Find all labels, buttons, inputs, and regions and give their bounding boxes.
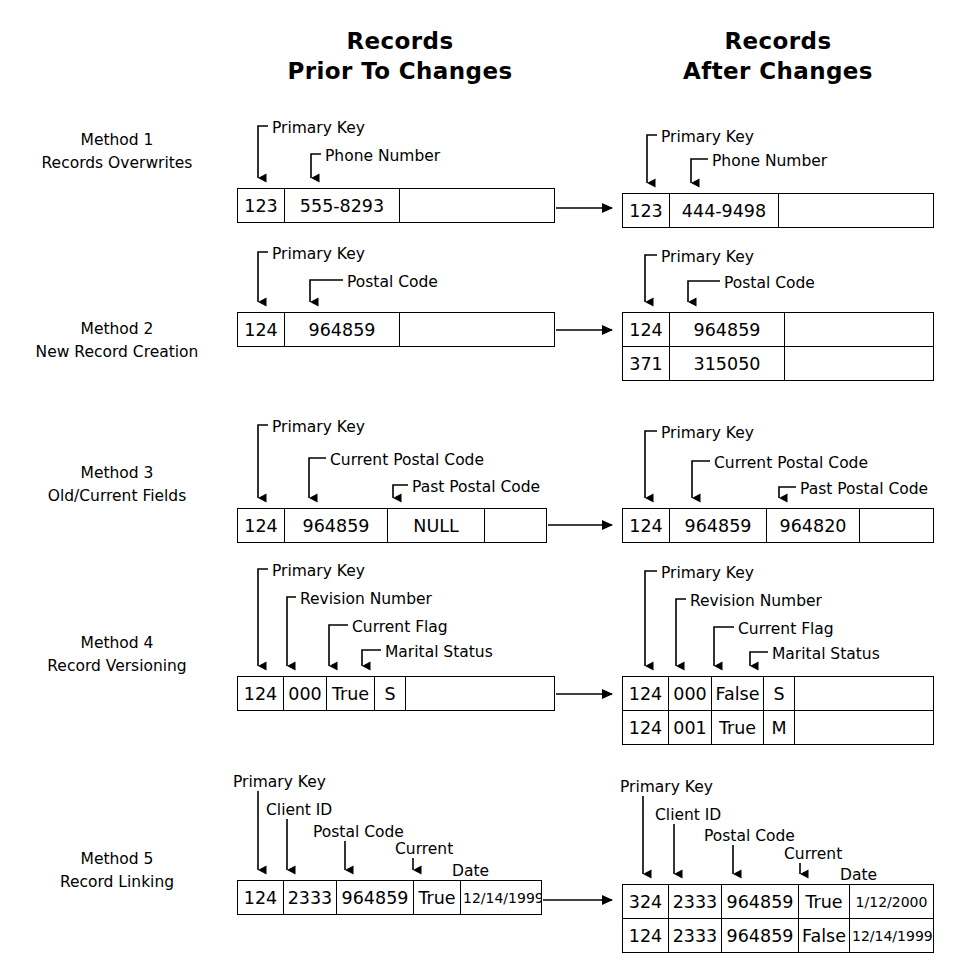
- leader-m4-before-primary-key: [258, 569, 268, 666]
- cell-marital-status: S: [764, 677, 795, 711]
- cell-primary-key: 123: [623, 194, 670, 228]
- leader-m1-before-primary-key: [258, 126, 268, 178]
- callout-m5-after-postal-code: Postal Code: [704, 827, 795, 845]
- leader-m4-after-current-flag: [714, 627, 734, 666]
- cell-blank: [785, 313, 934, 347]
- cell-blank: [779, 194, 934, 228]
- callout-m1-before-primary-key: Primary Key: [272, 119, 365, 137]
- leader-m2-before-primary-key: [258, 252, 268, 302]
- cell-client-id: 2333: [669, 885, 722, 919]
- record-table-method3-after: 124 964859 964820: [622, 508, 934, 543]
- cell-primary-key: 124: [623, 711, 669, 745]
- cell-blank: [860, 509, 934, 543]
- callout-m5-after-date: Date: [840, 866, 877, 884]
- cell-blank: [785, 347, 934, 381]
- callout-m4-after-marital-status: Marital Status: [772, 645, 880, 663]
- table-row: 124 001 True M: [623, 711, 934, 745]
- callout-m4-before-current-flag: Current Flag: [352, 618, 448, 636]
- callout-m5-after-client-id: Client ID: [655, 806, 721, 824]
- cell-primary-key: 124: [238, 881, 284, 915]
- cell-primary-key: 124: [623, 509, 670, 543]
- cell-current: True: [799, 885, 850, 919]
- callout-m1-after-primary-key: Primary Key: [661, 128, 754, 146]
- callout-m2-before-primary-key: Primary Key: [272, 245, 365, 263]
- record-table-method2-before: 124 964859: [237, 312, 555, 347]
- cell-blank: [400, 189, 555, 223]
- leader-m2-after-primary-key: [645, 255, 657, 302]
- cell-blank: [400, 313, 555, 347]
- table-row: 371 315050: [623, 347, 934, 381]
- record-table-method4-before: 124 000 True S: [237, 676, 555, 711]
- callout-m2-before-postal-code: Postal Code: [347, 273, 438, 291]
- record-table-method1-after: 123 444-9498: [622, 193, 934, 228]
- leader-m4-after-primary-key: [645, 571, 657, 666]
- cell-primary-key: 124: [623, 677, 669, 711]
- cell-current-postal-code: 964859: [285, 509, 388, 543]
- record-table-method5-after: 324 2333 964859 True 1/12/2000 124 2333 …: [622, 884, 934, 953]
- cell-marital-status: M: [764, 711, 795, 745]
- table-row: 123 555-8293: [238, 189, 555, 223]
- callout-m4-before-revision-number: Revision Number: [300, 590, 432, 608]
- cell-current: False: [799, 919, 850, 953]
- callout-m4-before-marital-status: Marital Status: [385, 643, 493, 661]
- cell-phone-number: 444-9498: [670, 194, 779, 228]
- cell-blank: [795, 677, 934, 711]
- callout-m3-before-primary-key: Primary Key: [272, 418, 365, 436]
- cell-postal-code: 964859: [722, 885, 799, 919]
- record-table-method5-before: 124 2333 964859 True 12/14/1999: [237, 880, 542, 915]
- table-row: 124 964859 NULL: [238, 509, 547, 543]
- cell-postal-code: 964859: [337, 881, 414, 915]
- cell-client-id: 2333: [669, 919, 722, 953]
- cell-past-postal-code: 964820: [767, 509, 860, 543]
- column-heading-before: Records Prior To Changes: [240, 26, 560, 86]
- cell-blank: [795, 711, 934, 745]
- method-label-3: Method 3 Old/Current Fields: [2, 462, 232, 508]
- callout-m5-before-postal-code: Postal Code: [313, 823, 404, 841]
- cell-primary-key: 324: [623, 885, 669, 919]
- callout-m2-after-postal-code: Postal Code: [724, 274, 815, 292]
- table-row: 324 2333 964859 True 1/12/2000: [623, 885, 934, 919]
- method-label-5: Method 5 Record Linking: [2, 848, 232, 894]
- callout-m3-after-primary-key: Primary Key: [661, 424, 754, 442]
- table-row: 124 964859: [623, 313, 934, 347]
- cell-primary-key: 371: [623, 347, 670, 381]
- leader-m3-before-current-postal-code: [309, 458, 326, 498]
- table-row: 124 2333 964859 False 12/14/1999: [623, 919, 934, 953]
- cell-marital-status: S: [375, 677, 406, 711]
- leader-m2-before-postal-code: [310, 280, 343, 302]
- cell-postal-code: 964859: [722, 919, 799, 953]
- cell-date: 1/12/2000: [850, 885, 934, 919]
- cell-current-flag: True: [712, 711, 764, 745]
- record-table-method1-before: 123 555-8293: [237, 188, 555, 223]
- cell-primary-key: 124: [623, 313, 670, 347]
- callout-m3-after-current-postal-code: Current Postal Code: [714, 454, 868, 472]
- cell-blank: [485, 509, 547, 543]
- cell-postal-code: 964859: [670, 313, 785, 347]
- callout-m4-after-primary-key: Primary Key: [661, 564, 754, 582]
- callout-m4-before-primary-key: Primary Key: [272, 562, 365, 580]
- cell-phone-number: 555-8293: [285, 189, 400, 223]
- callout-m5-after-current: Current: [784, 845, 842, 863]
- cell-current: True: [414, 881, 461, 915]
- leader-m3-before-past-postal-code: [393, 485, 408, 498]
- cell-revision-number: 001: [669, 711, 712, 745]
- column-heading-after: Records After Changes: [628, 26, 928, 86]
- leader-m1-after-phone-number: [691, 159, 708, 183]
- leader-m3-before-primary-key: [258, 425, 268, 498]
- table-row: 124 2333 964859 True 12/14/1999: [238, 881, 542, 915]
- cell-current-flag: False: [712, 677, 764, 711]
- callout-m5-after-primary-key: Primary Key: [620, 778, 713, 796]
- record-table-method2-after: 124 964859 371 315050: [622, 312, 934, 381]
- cell-primary-key: 124: [238, 677, 284, 711]
- cell-current-postal-code: 964859: [670, 509, 767, 543]
- cell-primary-key: 124: [238, 509, 285, 543]
- table-row: 124 000 True S: [238, 677, 555, 711]
- method-label-2: Method 2 New Record Creation: [2, 318, 232, 364]
- cell-postal-code: 315050: [670, 347, 785, 381]
- table-row: 124 000 False S: [623, 677, 934, 711]
- leader-m4-before-marital-status: [362, 650, 381, 666]
- record-table-method4-after: 124 000 False S 124 001 True M: [622, 676, 934, 745]
- callout-m5-before-client-id: Client ID: [266, 801, 332, 819]
- leader-m4-after-marital-status: [750, 652, 768, 666]
- method-label-1: Method 1 Records Overwrites: [2, 129, 232, 175]
